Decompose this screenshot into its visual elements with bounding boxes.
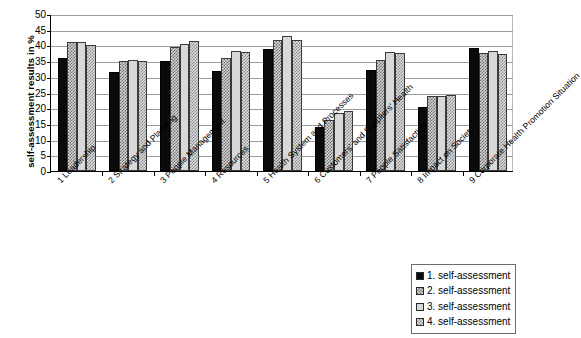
y-axis-tick-label: 45 bbox=[35, 26, 46, 36]
y-axis-tick-label: 40 bbox=[35, 41, 46, 51]
y-axis-tick-mark bbox=[47, 172, 51, 173]
legend-label: 4. self-assessment bbox=[427, 317, 510, 327]
y-axis-tick-label: 15 bbox=[35, 120, 46, 130]
x-axis-tick bbox=[308, 171, 309, 176]
bar bbox=[170, 47, 180, 171]
bar bbox=[469, 48, 479, 171]
legend-swatch-icon bbox=[416, 318, 424, 326]
x-axis-tick bbox=[360, 171, 361, 176]
legend-swatch-icon bbox=[416, 287, 424, 295]
bar bbox=[67, 42, 77, 171]
y-axis-tick-label: 50 bbox=[35, 10, 46, 20]
bar bbox=[109, 72, 119, 171]
y-axis-tick-label: 5 bbox=[40, 151, 46, 161]
legend: 1. self-assessment2. self-assessment3. s… bbox=[411, 264, 516, 334]
x-axis-tick bbox=[102, 171, 103, 176]
legend-label: 1. self-assessment bbox=[427, 271, 510, 281]
bar bbox=[418, 107, 428, 171]
bar bbox=[263, 49, 273, 171]
legend-item[interactable]: 4. self-assessment bbox=[416, 315, 510, 331]
bar bbox=[273, 40, 283, 171]
x-axis-tick bbox=[463, 171, 464, 176]
legend-label: 3. self-assessment bbox=[427, 302, 510, 312]
legend-item[interactable]: 3. self-assessment bbox=[416, 299, 510, 315]
bar bbox=[119, 61, 129, 171]
y-axis-tick-label: 25 bbox=[35, 89, 46, 99]
bar bbox=[479, 53, 489, 171]
bar bbox=[58, 58, 68, 171]
legend-item[interactable]: 2. self-assessment bbox=[416, 284, 510, 300]
bar bbox=[446, 95, 456, 171]
x-axis-tick bbox=[205, 171, 206, 176]
bar-group bbox=[205, 15, 256, 171]
x-axis-tick bbox=[257, 171, 258, 176]
legend-label: 2. self-assessment bbox=[427, 286, 510, 296]
legend-swatch-icon bbox=[416, 303, 424, 311]
y-axis-tick-label: 30 bbox=[35, 73, 46, 83]
legend-item[interactable]: 1. self-assessment bbox=[416, 268, 510, 284]
x-axis-tick bbox=[154, 171, 155, 176]
x-axis-tick bbox=[411, 171, 412, 176]
y-axis-tick-label: 0 bbox=[40, 167, 46, 177]
y-axis-tick-label: 20 bbox=[35, 104, 46, 114]
y-axis-tick-label: 35 bbox=[35, 57, 46, 67]
y-axis-tick-label: 10 bbox=[35, 136, 46, 146]
y-axis-title: self-assessment results in % bbox=[25, 12, 36, 192]
legend-swatch-icon bbox=[416, 272, 424, 280]
bar bbox=[221, 58, 231, 171]
